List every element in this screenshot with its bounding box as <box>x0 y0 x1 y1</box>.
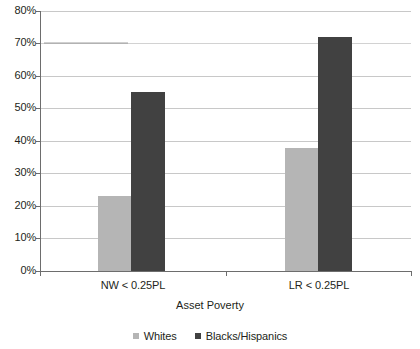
x-category-label-nw: NW < 0.25PL <box>73 279 193 292</box>
y-axis-label-50-wrap: 50% <box>0 102 36 113</box>
y-axis-label-30-wrap: 30% <box>0 167 36 178</box>
legend-swatch-whites-icon <box>133 333 139 339</box>
x-category-label-lr: LR < 0.25PL <box>259 279 379 292</box>
y-axis-label-0: 0% <box>2 265 36 276</box>
chart-legend: Whites Blacks/Hispanics <box>0 330 420 342</box>
y-axis-label-40: 40% <box>2 135 36 146</box>
y-axis-label-10: 10% <box>2 232 36 243</box>
y-axis-label-30: 30% <box>2 167 36 178</box>
y-axis-label-10-wrap: 10% <box>0 232 36 243</box>
legend-label-blacks-hispanics: Blacks/Hispanics <box>206 330 288 342</box>
bar-blacks-hispanics-lr[interactable] <box>318 37 352 271</box>
x-tick-mid <box>226 271 227 276</box>
bar-whites-lr[interactable] <box>285 148 318 272</box>
y-axis-label-60: 60% <box>2 70 36 81</box>
y-axis-label-60-wrap: 60% <box>0 70 36 81</box>
y-axis-label-70: 70% <box>2 37 36 48</box>
x-tick-end <box>411 271 412 276</box>
y-axis-label-20-wrap: 20% <box>0 200 36 211</box>
bar-blacks-hispanics-nw[interactable] <box>131 92 165 271</box>
y-axis-label-40-wrap: 40% <box>0 135 36 146</box>
legend-item-whites[interactable]: Whites <box>133 330 177 342</box>
x-tick-start <box>40 271 41 276</box>
legend-label-whites: Whites <box>144 330 177 342</box>
legend-swatch-blacks-hispanics-icon <box>195 333 201 339</box>
plot-area <box>40 11 411 271</box>
y-axis-label-50: 50% <box>2 102 36 113</box>
y-axis-label-20: 20% <box>2 200 36 211</box>
y-axis-label-80: 80% <box>2 5 36 16</box>
legend-item-blacks-hispanics[interactable]: Blacks/Hispanics <box>195 330 288 342</box>
y-axis-label-0-wrap: 0% <box>0 265 36 276</box>
x-axis-title: Asset Poverty <box>0 299 420 312</box>
bar-whites-nw[interactable] <box>98 196 131 271</box>
y-axis-label-70-wrap: 70% <box>0 37 36 48</box>
bar-chart: 80% 70% 60% 50% 40% 30% 20% 10% 0% <box>0 0 420 349</box>
y-axis-label-80-wrap: 80% <box>0 5 36 16</box>
